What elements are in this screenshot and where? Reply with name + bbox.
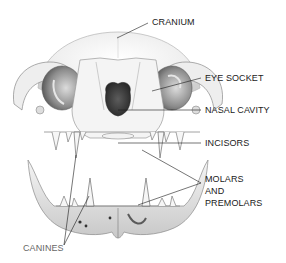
label-incisors: INCISORS bbox=[205, 138, 249, 148]
label-nasal-cavity: NASAL CAVITY bbox=[205, 105, 270, 115]
label-eye-socket: EYE SOCKET bbox=[205, 73, 264, 83]
upper-teeth bbox=[44, 132, 200, 158]
nasal-cavity-opening bbox=[106, 82, 131, 116]
label-canines: CANINES bbox=[23, 243, 64, 253]
skull-illustration bbox=[0, 0, 286, 263]
label-molars-line2: AND bbox=[205, 186, 224, 196]
label-cranium: CRANIUM bbox=[152, 17, 195, 27]
label-molars-line3: PREMOLARS bbox=[205, 198, 262, 208]
label-molars-line1: MOLARS bbox=[205, 174, 244, 184]
leader-molars-upper bbox=[142, 150, 201, 183]
